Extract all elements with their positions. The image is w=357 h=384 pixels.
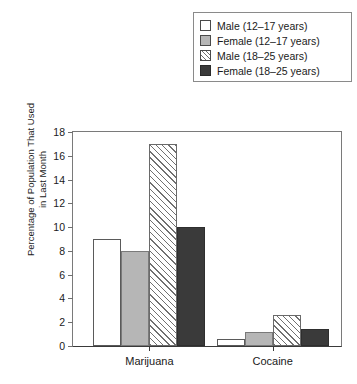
y-axis-tick-label: 12: [53, 197, 65, 209]
legend-item: Female (12–17 years): [200, 33, 351, 48]
legend-item-label: Male (12–17 years): [217, 20, 307, 32]
y-axis-tick: [68, 132, 73, 133]
y-axis-tick-label: 2: [59, 316, 65, 328]
bar: [149, 144, 177, 346]
y-axis-title-line2: in Last Month: [36, 75, 48, 285]
legend-item-label: Female (18–25 years): [217, 65, 320, 77]
y-axis-tick: [68, 227, 73, 228]
x-axis-category-label: Marijuana: [125, 355, 173, 367]
chart-legend: Male (12–17 years) Female (12–17 years) …: [193, 12, 352, 82]
bar: [217, 339, 245, 346]
y-axis-tick: [68, 275, 73, 276]
y-axis-tick-label: 8: [59, 245, 65, 257]
legend-swatch-dark-icon: [200, 65, 211, 76]
y-axis-tick: [68, 203, 73, 204]
x-axis-category-label: Cocaine: [252, 355, 292, 367]
y-axis-tick: [68, 156, 73, 157]
y-axis-tick-label: 6: [59, 269, 65, 281]
y-axis-tick: [68, 322, 73, 323]
bar: [121, 251, 149, 346]
x-axis-tick: [149, 346, 150, 351]
legend-swatch-gray-icon: [200, 35, 211, 46]
y-axis-tick-label: 14: [53, 174, 65, 186]
bar: [301, 329, 329, 346]
y-axis-tick: [68, 180, 73, 181]
legend-item: Male (18–25 years): [200, 48, 351, 63]
plot-area: 024681012141618MarijuanaCocaine: [72, 131, 342, 347]
y-axis-tick: [68, 251, 73, 252]
y-axis-tick: [68, 298, 73, 299]
legend-item: Male (12–17 years): [200, 18, 351, 33]
legend-swatch-white-icon: [200, 20, 211, 31]
y-axis-tick-label: 4: [59, 292, 65, 304]
legend-item: Female (18–25 years): [200, 63, 351, 78]
bar: [273, 315, 301, 346]
y-axis-title-line1: Percentage of Population That Used: [25, 103, 36, 256]
y-axis-tick-label: 18: [53, 126, 65, 138]
x-axis-tick: [273, 346, 274, 351]
bar: [93, 239, 121, 346]
y-axis-tick-label: 16: [53, 150, 65, 162]
legend-item-label: Male (18–25 years): [217, 50, 307, 62]
y-axis-tick-label: 10: [53, 221, 65, 233]
y-axis-tick-label: 0: [59, 340, 65, 352]
y-axis-tick: [68, 346, 73, 347]
bar: [177, 227, 205, 346]
legend-item-label: Female (12–17 years): [217, 35, 320, 47]
bar: [245, 332, 273, 346]
legend-swatch-hatch-icon: [200, 50, 211, 61]
y-axis-title: Percentage of Population That Used in La…: [25, 75, 48, 285]
